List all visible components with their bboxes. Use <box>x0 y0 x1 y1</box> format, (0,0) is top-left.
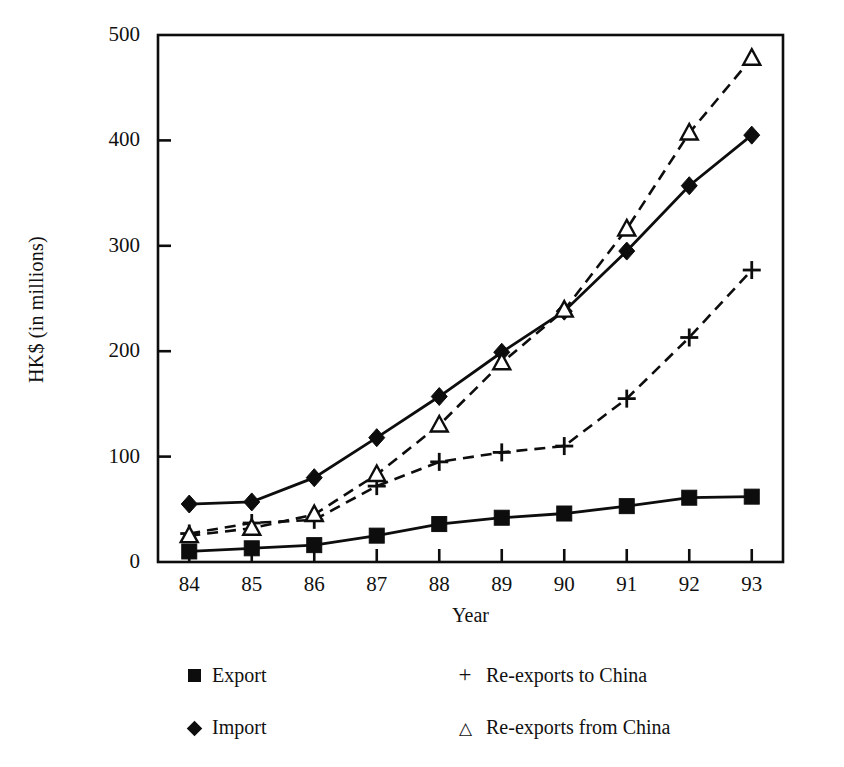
marker-open-triangle <box>306 506 323 522</box>
open-triangle-icon: △ <box>459 722 472 736</box>
legend-item: △Re-exports from China <box>452 716 670 739</box>
legend-item: +Re-exports to China <box>452 664 647 687</box>
plus-icon: + <box>459 668 472 682</box>
legend-item: Import <box>178 716 266 739</box>
marker-filled-square <box>494 510 509 525</box>
marker-filled-diamond <box>181 495 197 513</box>
legend-item-label: Import <box>212 716 266 739</box>
marker-open-triangle <box>368 466 385 482</box>
marker-open-triangle <box>743 49 760 65</box>
marker-open-triangle <box>243 519 260 535</box>
legend-item-label: Re-exports to China <box>486 664 647 687</box>
series-import <box>181 126 760 513</box>
marker-filled-square <box>244 541 259 556</box>
legend-marker-filled-diamond <box>178 716 204 739</box>
marker-filled-square <box>307 538 322 553</box>
chart-legend: ExportImport+Re-exports to China△Re-expo… <box>178 664 718 750</box>
series-line <box>189 135 752 504</box>
legend-item-label: Re-exports from China <box>486 716 670 739</box>
plot-area <box>0 0 844 767</box>
marker-filled-square <box>619 499 634 514</box>
marker-filled-square <box>432 517 447 532</box>
marker-open-triangle <box>618 220 635 236</box>
marker-filled-diamond <box>431 388 447 406</box>
marker-filled-diamond <box>306 469 322 487</box>
series-line <box>189 58 752 535</box>
legend-item: Export <box>178 664 266 687</box>
marker-filled-square <box>682 490 697 505</box>
marker-filled-square <box>557 506 572 521</box>
legend-marker-open-triangle: △ <box>452 716 478 739</box>
marker-filled-square <box>744 489 759 504</box>
filled-square-icon <box>188 669 201 682</box>
series-re-exports-from-china <box>181 49 761 542</box>
marker-filled-diamond <box>369 429 385 447</box>
marker-filled-square <box>369 528 384 543</box>
legend-marker-filled-square <box>178 664 204 687</box>
plot-frame <box>158 35 783 562</box>
marker-filled-diamond <box>244 493 260 511</box>
marker-filled-square <box>182 544 197 559</box>
series-line <box>189 497 752 552</box>
legend-item-label: Export <box>212 664 266 687</box>
filled-diamond-icon <box>187 721 203 737</box>
chart-figure: HK$ (in millions) Year 0100200300400500 … <box>0 0 844 767</box>
legend-marker-plus: + <box>452 664 478 687</box>
